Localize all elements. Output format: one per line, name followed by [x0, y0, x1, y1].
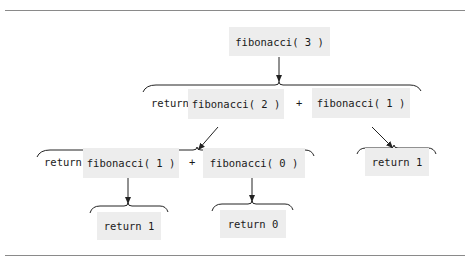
- level2-plus-operator: +: [189, 156, 195, 168]
- level3-left-result-box: return 1: [97, 212, 161, 240]
- level1-return-keyword: return: [151, 97, 189, 109]
- level2-right-result-box: return 1: [365, 148, 429, 176]
- level1-left-call-box: fibonacci( 2 ): [188, 89, 284, 119]
- root-call-box: fibonacci( 3 ): [229, 27, 330, 56]
- level2-left-call-box: fibonacci( 1 ): [83, 148, 179, 178]
- level1-right-call-box: fibonacci( 1 ): [312, 88, 410, 118]
- level2-return-keyword: return: [44, 156, 82, 168]
- level1-plus-operator: +: [296, 97, 302, 109]
- level2-right-call-box: fibonacci( 0 ): [203, 148, 305, 178]
- level3-right-result-box: return 0: [220, 210, 286, 238]
